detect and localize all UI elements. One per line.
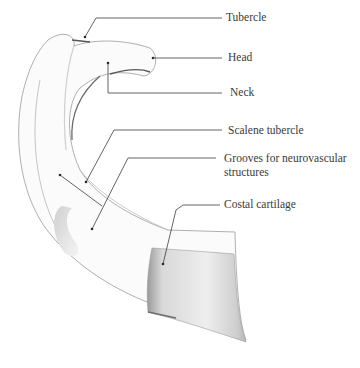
label-grooves-line1: Grooves for neurovascular [224, 151, 347, 165]
label-head: Head [228, 50, 252, 64]
label-scalene-tubercle: Scalene tubercle [228, 123, 304, 137]
leader-tubercle [85, 18, 222, 37]
label-grooves-line2: structures [224, 165, 269, 179]
label-neck: Neck [230, 85, 254, 99]
rib-illustration [0, 0, 360, 368]
label-costal-cartilage: Costal cartilage [224, 197, 296, 211]
label-tubercle: Tubercle [226, 10, 266, 24]
costal-cartilage-shape [147, 248, 246, 342]
leader-scalene-tubercle [86, 130, 222, 182]
rib-diagram: Tubercle Head Neck Scalene tubercle Groo… [0, 0, 360, 368]
